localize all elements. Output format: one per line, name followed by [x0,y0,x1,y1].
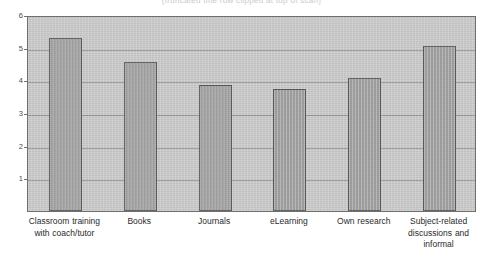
chart-figure: (truncated title row clipped at top of s… [0,0,483,272]
x-axis-category-label: Books [102,216,177,228]
bar [348,78,381,211]
x-axis-category-label: Classroom training with coach/tutor [27,216,102,239]
y-axis: 654321 [0,0,27,212]
y-axis-tick-label: 2 [3,143,23,151]
bar [273,89,306,211]
bar [423,46,456,211]
clipped-title-row: (truncated title row clipped at top of s… [0,0,483,9]
bar [199,85,232,211]
y-axis-tick-label: 4 [3,77,23,85]
y-axis-tick-label: 6 [3,12,23,20]
x-axis-category-label: Subject-related discussions and informal [401,216,476,251]
y-axis-tick-label: 5 [3,45,23,53]
y-axis-tick-label: 3 [3,110,23,118]
x-axis-category-label: eLearning [252,216,327,228]
x-axis-category-labels: Classroom training with coach/tutorBooks… [27,216,476,272]
bar [124,62,157,211]
bar [49,38,82,211]
plot-area [27,16,476,212]
x-axis-category-label: Journals [177,216,252,228]
bar-series [28,17,475,211]
x-axis-category-label: Own research [326,216,401,228]
y-axis-tick-label: 1 [3,175,23,183]
clipped-title-text: (truncated title row clipped at top of s… [162,0,322,5]
